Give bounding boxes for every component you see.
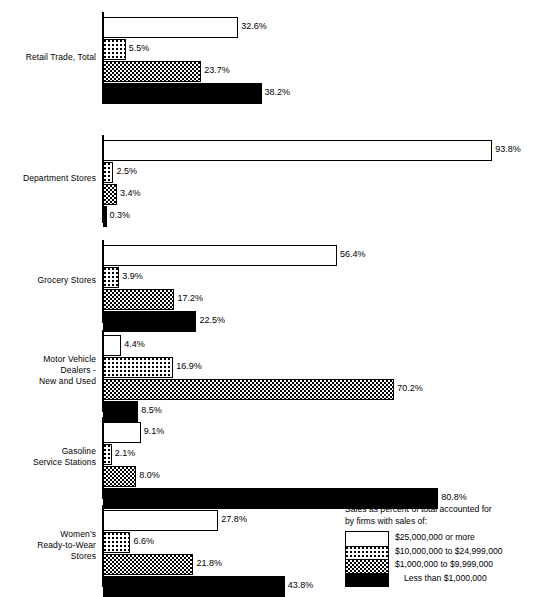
bar-value-label: 56.4% <box>340 249 366 260</box>
legend-title-line1: Sales as percent of total accounted for <box>345 504 535 516</box>
bar-value-label: 8.5% <box>141 405 162 416</box>
bar-value-label: 17.2% <box>177 293 203 304</box>
bar-check <box>103 554 193 575</box>
bar-group: Gasoline Service Stations9.1%2.1%8.0%80.… <box>0 417 538 499</box>
bar-dots <box>103 162 113 183</box>
bar-value-label: 70.2% <box>397 383 423 394</box>
legend-rows: $25,000,000 or more $10,000,000 to $24,9… <box>345 531 535 585</box>
bar-white <box>103 510 218 531</box>
category-label: Women's Ready-to-Wear Stores <box>37 529 96 562</box>
bar-value-label: 27.8% <box>221 514 247 525</box>
bar-value-label: 3.9% <box>122 271 143 282</box>
bar-white <box>103 17 238 38</box>
legend-label-10m-to-24m: $10,000,000 to $24,999,000 <box>395 545 535 559</box>
bar-group: Department Stores93.8%2.5%3.4%0.3% <box>0 135 538 223</box>
bar-check <box>103 61 201 82</box>
bar-group: Retail Trade, Total32.6%5.5%23.7%38.2% <box>0 12 538 104</box>
bar-value-label: 0.3% <box>110 210 131 221</box>
bar-check <box>103 466 136 487</box>
bar-group: Grocery Stores56.4%3.9%17.2%22.5% <box>0 240 538 323</box>
legend-swatch-1m-to-9m <box>346 559 388 573</box>
bar-value-label: 23.7% <box>204 65 230 76</box>
bar-check <box>103 184 117 205</box>
bar-value-label: 3.4% <box>120 188 141 199</box>
bar-value-label: 9.1% <box>144 426 165 437</box>
bar-value-label: 4.4% <box>124 339 145 350</box>
category-label: Retail Trade, Total <box>26 52 96 63</box>
bar-black <box>103 311 196 332</box>
bar-value-label: 5.5% <box>129 43 150 54</box>
bar-check <box>103 379 394 400</box>
bar-dots <box>103 267 119 288</box>
bar-value-label: 38.2% <box>265 87 291 98</box>
legend-label-column: $25,000,000 or more $10,000,000 to $24,9… <box>395 531 535 585</box>
bar-value-label: 2.5% <box>116 166 137 177</box>
legend-swatch-10m-to-24m <box>346 546 388 560</box>
bar-white <box>103 140 492 161</box>
category-label: Grocery Stores <box>37 275 96 286</box>
bar-dots <box>103 532 130 553</box>
bar-dots <box>103 357 173 378</box>
legend-swatch-less-than-1m <box>346 573 388 587</box>
category-label: Motor Vehicle Dealers - New and Used <box>39 354 96 387</box>
bar-value-label: 43.8% <box>288 580 314 591</box>
bar-white <box>103 245 337 266</box>
bar-value-label: 6.6% <box>133 536 154 547</box>
legend-title-line2: by firms with sales of: <box>345 516 535 528</box>
bar-black <box>103 206 107 227</box>
bar-dots <box>103 39 126 60</box>
legend-label-1m-to-9m: $1,000,000 to $9,999,000 <box>395 558 535 572</box>
category-label: Gasoline Service Stations <box>33 446 96 468</box>
legend-label-less-than-1m: Less than $1,000,000 <box>395 572 535 586</box>
bar-black <box>103 576 285 597</box>
bar-dots <box>103 444 112 465</box>
legend-swatch-25m-or-more <box>346 532 388 546</box>
category-label: Department Stores <box>23 173 96 184</box>
bar-value-label: 8.0% <box>139 470 160 481</box>
chart-legend: Sales as percent of total accounted for … <box>345 504 535 585</box>
bar-white <box>103 422 141 443</box>
bar-value-label: 80.8% <box>441 492 467 503</box>
bar-value-label: 21.8% <box>196 558 222 569</box>
bar-value-label: 2.1% <box>115 448 136 459</box>
bar-value-label: 93.8% <box>495 144 521 155</box>
bar-value-label: 22.5% <box>199 315 225 326</box>
bar-black <box>103 83 262 104</box>
legend-label-25m-or-more: $25,000,000 or more <box>395 531 535 545</box>
bar-check <box>103 289 174 310</box>
bar-value-label: 16.9% <box>176 361 202 372</box>
bar-value-label: 32.6% <box>241 21 267 32</box>
legend-swatch-column <box>345 531 389 587</box>
bar-group: Motor Vehicle Dealers - New and Used4.4%… <box>0 330 538 412</box>
bar-white <box>103 335 121 356</box>
